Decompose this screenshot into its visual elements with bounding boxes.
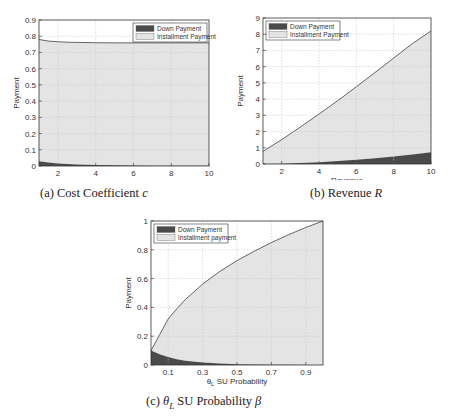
- legend-swatch-down-payment: [136, 26, 154, 32]
- x-tick-label: 2: [56, 169, 61, 178]
- y-tick-label: 4: [256, 95, 261, 104]
- y-tick-label: 1: [144, 217, 149, 226]
- y-tick-label: 5: [256, 79, 261, 88]
- x-tick-label: 4: [317, 167, 322, 176]
- caption-a: (a) Cost Coefficient c: [40, 186, 148, 201]
- legend-label: Down Payment: [290, 23, 334, 31]
- y-tick-label: 2: [256, 128, 261, 137]
- y-axis-label: Payment: [12, 76, 21, 108]
- y-tick-label: 0.8: [25, 32, 37, 41]
- legend-swatch-down-payment: [269, 24, 287, 30]
- figure-b: 0123456789246810RevenuePaymentDown Payme…: [230, 0, 454, 205]
- x-tick-label: 0.7: [266, 368, 278, 377]
- y-tick-label: 0.7: [25, 48, 37, 57]
- x-tick-label: 0.1: [163, 368, 175, 377]
- y-tick-label: 8: [256, 30, 261, 39]
- x-tick-label: 4: [93, 169, 98, 178]
- y-tick-label: 0.4: [25, 97, 37, 106]
- x-tick-label: 6: [354, 167, 359, 176]
- x-tick-label: 8: [169, 169, 174, 178]
- y-tick-label: 0.5: [25, 81, 37, 90]
- legend-swatch-installment: [269, 32, 287, 38]
- chart-cost-coefficient: 00.10.20.30.40.50.60.70.80.9246810Cost C…: [0, 0, 230, 180]
- y-tick-label: 0.3: [25, 113, 37, 122]
- x-axis-label: Revenue: [331, 176, 364, 180]
- figure-c: 00.20.40.60.810.10.30.50.70.9θL SU Proba…: [110, 205, 350, 419]
- x-tick-label: 6: [131, 169, 136, 178]
- legend-label: Down Payment: [157, 25, 201, 33]
- y-tick-label: 0.2: [25, 130, 37, 139]
- chart-revenue: 0123456789246810RevenuePaymentDown Payme…: [230, 0, 454, 180]
- legend-swatch-down-payment: [157, 227, 175, 233]
- y-tick-label: 0.1: [25, 146, 37, 155]
- x-tick-label: 2: [279, 167, 284, 176]
- legend-label: Installment Payment: [157, 33, 216, 41]
- x-tick-label: 0.9: [300, 368, 312, 377]
- x-tick-label: 10: [205, 169, 214, 178]
- chart-su-probability: 00.20.40.60.810.10.30.50.70.9θL SU Proba…: [110, 205, 350, 390]
- x-axis-label: Cost Coefficient: [96, 178, 153, 180]
- x-tick-label: 0.5: [231, 368, 243, 377]
- legend: Down PaymentInstallment payment: [154, 224, 236, 243]
- caption-c: (c) θL SU Probability β: [146, 394, 261, 411]
- y-tick-label: 0.8: [137, 246, 149, 255]
- y-tick-label: 0.9: [25, 16, 37, 25]
- y-tick-label: 0: [32, 162, 37, 171]
- y-axis-label: Payment: [124, 276, 133, 308]
- legend-label: Installment Payment: [290, 31, 349, 39]
- y-tick-label: 1: [256, 144, 261, 153]
- legend: Down PaymentInstallment Payment: [266, 21, 349, 40]
- figure-a: 00.10.20.30.40.50.60.70.80.9246810Cost C…: [0, 0, 230, 205]
- y-tick-label: 7: [256, 46, 261, 55]
- y-tick-label: 9: [256, 14, 261, 23]
- x-axis-label: θL SU Probability: [207, 377, 268, 387]
- x-tick-label: 0.3: [197, 368, 209, 377]
- y-tick-label: 0: [144, 361, 149, 370]
- legend: Down PaymentInstallment Payment: [133, 23, 216, 42]
- y-tick-label: 0.6: [25, 65, 37, 74]
- y-tick-label: 3: [256, 111, 261, 120]
- y-axis-label: Payment: [236, 74, 245, 106]
- y-tick-label: 0.6: [137, 275, 149, 284]
- y-tick-label: 0: [256, 160, 261, 169]
- caption-b: (b) Revenue R: [310, 186, 382, 201]
- installment-payment-area: [39, 39, 209, 165]
- legend-swatch-installment: [136, 34, 154, 40]
- x-tick-label: 8: [391, 167, 396, 176]
- y-tick-label: 6: [256, 63, 261, 72]
- legend-label: Installment payment: [178, 234, 236, 242]
- y-tick-label: 0.4: [137, 303, 149, 312]
- x-tick-label: 10: [427, 167, 436, 176]
- legend-label: Down Payment: [178, 226, 222, 234]
- y-tick-label: 0.2: [137, 332, 149, 341]
- legend-swatch-installment: [157, 235, 175, 241]
